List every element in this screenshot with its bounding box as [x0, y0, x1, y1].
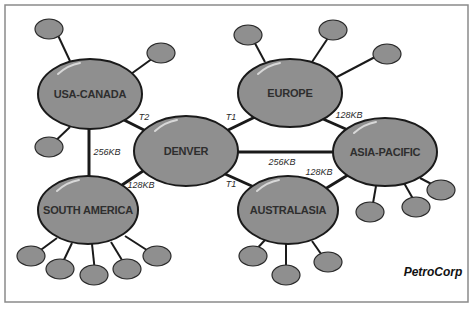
leaf-node [356, 202, 384, 222]
link-label-europe-denver: T1 [226, 112, 237, 122]
hub-label-asia-pacific: ASIA-PACIFIC [350, 146, 421, 158]
leaf-node [147, 43, 175, 63]
leaf-node [427, 180, 455, 200]
hub-denver: DENVER [134, 116, 238, 186]
link-label-denver-asia-pacific: 256KB [267, 157, 295, 167]
network-diagram: USA-CANADA EUROPE DENVER ASIA-PACIFIC SO… [0, 0, 473, 309]
brand-label: PetroCorp [404, 265, 463, 279]
link-label-denver-south-america: 128KB [127, 180, 154, 190]
link-label-europe-asia-pacific: 128KB [335, 110, 362, 120]
link-label-denver-australasia: T1 [226, 179, 237, 189]
leaf-node [239, 246, 267, 266]
hub-europe: EUROPE [238, 59, 342, 127]
hub-label-south-america: SOUTH AMERICA [43, 204, 133, 216]
hub-south-america: SOUTH AMERICA [38, 176, 138, 244]
leaf-node [35, 137, 63, 157]
leaf-node [80, 265, 108, 285]
leaf-node [46, 259, 74, 279]
hub-label-australasia: AUSTRALASIA [250, 204, 327, 216]
link-label-usa-canada-denver: T2 [139, 112, 150, 122]
leaf-node [373, 44, 401, 64]
leaf-node [234, 25, 262, 45]
hub-usa-canada: USA-CANADA [38, 59, 142, 129]
leaf-node [272, 265, 300, 285]
leaf-node [319, 20, 347, 40]
leaf-node [113, 259, 141, 279]
leaf-node [402, 197, 430, 217]
link-label-australasia-asia-pacific: 128KB [305, 167, 332, 177]
leaf-node [314, 252, 342, 272]
leaf-node [143, 246, 171, 266]
hub-australasia: AUSTRALASIA [238, 176, 338, 244]
hub-label-usa-canada: USA-CANADA [54, 88, 127, 100]
leaf-node [35, 19, 63, 39]
hub-asia-pacific: ASIA-PACIFIC [333, 118, 437, 186]
leaf-node [17, 246, 45, 266]
hub-label-denver: DENVER [164, 145, 209, 157]
hub-label-europe: EUROPE [267, 87, 312, 99]
link-label-usa-canada-south-america: 256KB [92, 147, 120, 157]
